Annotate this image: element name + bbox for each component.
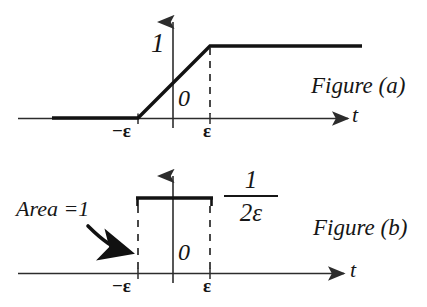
figure-b-amplitude-denominator: 2ε: [224, 199, 278, 225]
figure-b-amplitude-numerator: 1: [224, 167, 278, 194]
figure-b-tick-left-label: −ε: [112, 276, 131, 295]
figure-b-tick-right-label: ε: [203, 276, 211, 295]
figure-b-fraction-bar: [224, 195, 278, 197]
figure-b-caption: Figure (b): [313, 216, 407, 239]
area-annotation-arrow: [88, 226, 128, 252]
figure-a-caption: Figure (a): [311, 74, 405, 97]
figures-vector-layer: [0, 0, 427, 307]
figure-b-x-axis-label: t: [350, 259, 356, 281]
figure-b-amplitude-fraction: 1 2ε: [224, 167, 278, 225]
figure-b-graph: [18, 176, 344, 283]
figure-a-tick-left-label: −ε: [112, 121, 131, 140]
figure-a-y-value-label: 1: [151, 30, 165, 57]
figure-a-tick-right-label: ε: [203, 121, 211, 140]
figure-b-area-annotation: Area =1: [16, 198, 89, 220]
figure-b-origin-label: 0: [178, 240, 190, 264]
figure-page: 1 0 −ε ε t Figure (a) Area =1 1 2ε 0 −ε …: [0, 0, 427, 307]
figure-a-x-axis-label: t: [352, 104, 358, 126]
figure-a-origin-label: 0: [178, 86, 190, 110]
